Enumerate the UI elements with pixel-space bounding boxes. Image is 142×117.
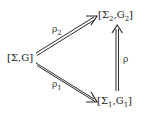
arrow-rho1: ρ1: [36, 63, 97, 102]
label-rho1: ρ1: [52, 79, 62, 92]
arrowhead-icon: [112, 25, 123, 33]
diagram-canvas: [Σ,G] [Σ2,G2] [Σ1,G1] ρ2: [0, 0, 142, 117]
label-rho: ρ: [123, 54, 128, 64]
svg-text:[Σ1,G1]: [Σ1,G1]: [97, 95, 132, 109]
svg-text:[Σ,G]: [Σ,G]: [7, 52, 33, 63]
label-rho2: ρ2: [52, 24, 62, 37]
node-sigma1-g1: [Σ1,G1]: [97, 95, 132, 109]
svg-text:[Σ2,G2]: [Σ2,G2]: [98, 9, 133, 23]
node-sigma2-g2: [Σ2,G2]: [98, 9, 133, 23]
node-sigma-g: [Σ,G]: [7, 52, 33, 63]
arrow-rho2: ρ2: [36, 16, 97, 56]
diagram-svg: [Σ,G] [Σ2,G2] [Σ1,G1] ρ2: [0, 0, 142, 117]
arrow-rho: ρ: [112, 25, 128, 91]
